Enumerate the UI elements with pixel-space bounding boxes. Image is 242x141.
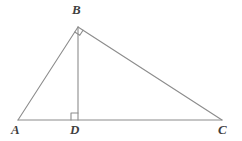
vertex-label-b: B (72, 3, 81, 16)
triangle-figure (0, 0, 242, 141)
segment-BC (78, 27, 222, 120)
vertex-label-d: D (70, 123, 79, 136)
right-angle-mark-at-D (71, 113, 78, 120)
vertex-label-c: C (218, 123, 227, 136)
vertex-label-a: A (11, 123, 20, 136)
segment-AB (18, 27, 78, 120)
geometry-diagram: A B C D (0, 0, 242, 141)
